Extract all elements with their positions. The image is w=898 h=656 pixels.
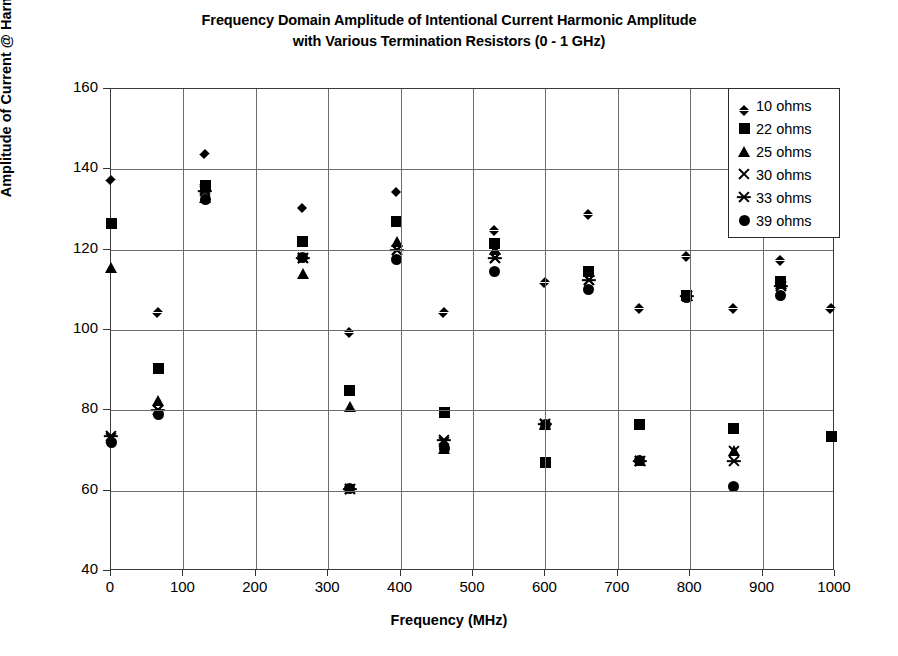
data-point <box>439 407 450 418</box>
chart-title-line-1: Frequency Domain Amplitude of Intentiona… <box>0 10 898 31</box>
gridline-vertical <box>473 89 474 569</box>
x-tick-label: 400 <box>370 578 430 595</box>
data-point <box>106 437 117 448</box>
y-tick-label: 160 <box>48 78 98 95</box>
y-tick-mark <box>103 570 110 571</box>
data-points-layer <box>111 89 833 569</box>
x-tick-mark <box>762 570 763 576</box>
square-marker-icon <box>739 123 750 134</box>
x-tick-label: 900 <box>732 578 792 595</box>
gridline-vertical <box>328 89 329 569</box>
star-marker-icon <box>738 191 750 203</box>
x-tick-label: 0 <box>80 578 140 595</box>
data-point <box>775 290 786 301</box>
x-tick-mark <box>182 570 183 576</box>
data-point <box>489 266 500 277</box>
x-tick-mark <box>472 570 473 576</box>
gridline-horizontal <box>111 250 833 251</box>
data-point <box>153 363 164 374</box>
y-tick-mark <box>103 490 110 491</box>
x-tick-mark <box>255 570 256 576</box>
gridline-vertical <box>183 89 184 569</box>
chart-container: Frequency Domain Amplitude of Intentiona… <box>0 0 898 656</box>
gridline-vertical <box>256 89 257 569</box>
x-tick-label: 500 <box>442 578 502 595</box>
x-tick-mark <box>110 570 111 576</box>
diamond-marker-icon <box>739 100 749 110</box>
data-point <box>634 455 645 466</box>
y-tick-mark <box>103 168 110 169</box>
data-point <box>634 419 645 430</box>
y-tick-mark <box>103 409 110 410</box>
x-tick-label: 1000 <box>804 578 864 595</box>
legend-item-30-ohms[interactable]: 30 ohms <box>729 163 839 186</box>
gridline-horizontal <box>111 330 833 331</box>
data-point <box>106 170 116 180</box>
y-tick-label: 120 <box>48 239 98 256</box>
legend-label: 39 ohms <box>756 213 812 229</box>
legend-item-10-ohms[interactable]: 10 ohms <box>729 94 839 117</box>
data-point <box>297 198 307 208</box>
y-tick-mark <box>103 329 110 330</box>
x-tick-mark <box>689 570 690 576</box>
legend-label: 10 ohms <box>756 98 812 114</box>
data-point <box>826 431 837 442</box>
x-tick-label: 800 <box>659 578 719 595</box>
data-point <box>106 218 117 229</box>
data-point <box>583 284 594 295</box>
plot-area <box>110 88 834 570</box>
diamond-icon <box>736 97 753 114</box>
gridline-vertical <box>545 89 546 569</box>
x-tick-mark <box>327 570 328 576</box>
legend-item-25-ohms[interactable]: 25 ohms <box>729 140 839 163</box>
y-axis-label: Amplitude of Current @ Harmonics (dBuA) <box>0 0 14 200</box>
x-tick-mark <box>834 570 835 576</box>
x-tick-label: 100 <box>152 578 212 595</box>
y-tick-label: 80 <box>48 399 98 416</box>
data-point <box>200 194 211 205</box>
gridline-vertical <box>401 89 402 569</box>
data-point <box>775 250 785 260</box>
data-point <box>728 455 740 467</box>
x-tick-mark <box>544 570 545 576</box>
x-tick-mark <box>617 570 618 576</box>
x-tick-label: 200 <box>225 578 285 595</box>
legend-item-39-ohms[interactable]: 39 ohms <box>729 209 839 232</box>
chart-title-line-2: with Various Termination Resistors (0 - … <box>0 31 898 52</box>
triangle-icon <box>736 143 753 160</box>
data-point <box>439 443 450 454</box>
star-icon <box>736 189 753 206</box>
circle-marker-icon <box>739 215 750 226</box>
data-point <box>297 236 308 247</box>
chart-legend: 10 ohms22 ohms25 ohms30 ohms33 ohms39 oh… <box>728 88 840 238</box>
y-tick-mark <box>103 88 110 89</box>
data-point <box>826 298 836 308</box>
legend-label: 25 ohms <box>756 144 812 160</box>
x-tick-label: 300 <box>297 578 357 595</box>
y-tick-mark <box>103 249 110 250</box>
data-point <box>153 302 163 312</box>
x-axis-label: Frequency (MHz) <box>0 612 898 628</box>
data-point <box>583 204 593 214</box>
data-point <box>489 220 499 230</box>
legend-item-33-ohms[interactable]: 33 ohms <box>729 186 839 209</box>
legend-label: 30 ohms <box>756 167 812 183</box>
data-point <box>728 423 739 434</box>
gridline-horizontal <box>111 410 833 411</box>
data-point <box>200 144 210 154</box>
y-tick-label: 140 <box>48 158 98 175</box>
legend-label: 22 ohms <box>756 121 812 137</box>
data-point <box>344 385 355 396</box>
y-tick-label: 60 <box>48 480 98 497</box>
data-point <box>728 298 738 308</box>
y-tick-label: 100 <box>48 319 98 336</box>
data-point <box>634 298 644 308</box>
data-point <box>105 262 117 273</box>
gridline-horizontal <box>111 169 833 170</box>
data-point <box>439 302 449 312</box>
gridline-horizontal <box>111 491 833 492</box>
legend-item-22-ohms[interactable]: 22 ohms <box>729 117 839 140</box>
x-marker-icon <box>738 168 750 180</box>
square-icon <box>736 120 753 137</box>
x-tick-label: 700 <box>587 578 647 595</box>
